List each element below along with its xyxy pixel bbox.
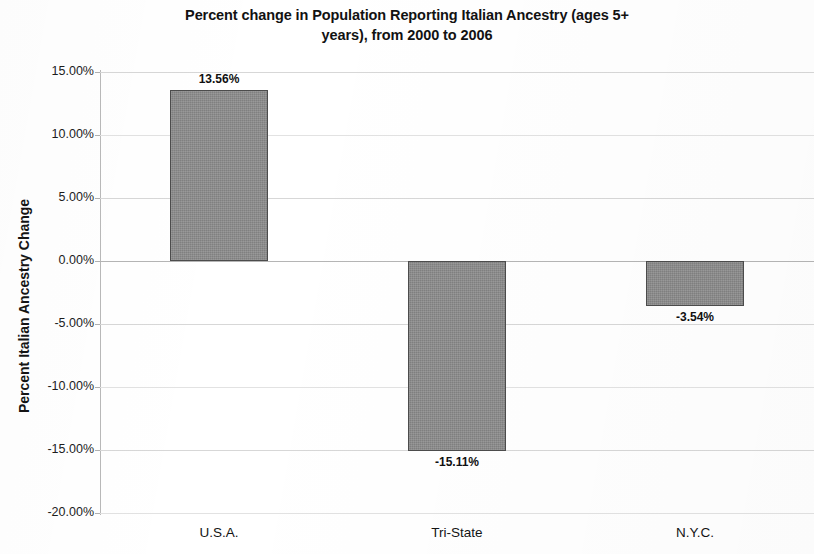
y-tick-label: -5.00%: [20, 316, 94, 330]
x-tick-label: U.S.A.: [149, 525, 289, 540]
chart-title-line-2: years), from 2000 to 2006: [70, 25, 744, 45]
y-axis-tick: [95, 450, 100, 451]
y-tick-label: 5.00%: [20, 190, 94, 204]
x-tick-label: Tri-State: [387, 525, 527, 540]
y-tick-label: 10.00%: [20, 127, 94, 141]
bar-value-label: -15.11%: [397, 455, 517, 469]
y-tick-label: -15.00%: [20, 442, 94, 456]
y-axis-tick: [95, 261, 100, 262]
bar-value-label: 13.56%: [159, 72, 279, 86]
y-tick-label: -20.00%: [20, 505, 94, 519]
bar-value-label: -3.54%: [635, 310, 755, 324]
y-axis-tick: [95, 387, 100, 388]
chart-title: Percent change in Population Reporting I…: [70, 5, 744, 45]
y-axis-tick: [95, 198, 100, 199]
y-axis-tick: [95, 324, 100, 325]
y-axis-tick: [95, 72, 100, 73]
x-tick-label: N.Y.C.: [625, 525, 765, 540]
bar: [408, 261, 506, 451]
y-tick-label: 0.00%: [20, 253, 94, 267]
y-axis-tick: [95, 135, 100, 136]
y-tick-label: 15.00%: [20, 64, 94, 78]
bar-chart: Percent change in Population Reporting I…: [0, 0, 814, 554]
gridline: [100, 513, 814, 514]
y-axis-tick: [95, 513, 100, 514]
bar: [646, 261, 744, 306]
y-axis-title: Percent Italian Ancestry Change: [16, 136, 32, 476]
bar: [170, 90, 268, 261]
y-tick-label: -10.00%: [20, 379, 94, 393]
chart-title-line-1: Percent change in Population Reporting I…: [70, 5, 744, 25]
